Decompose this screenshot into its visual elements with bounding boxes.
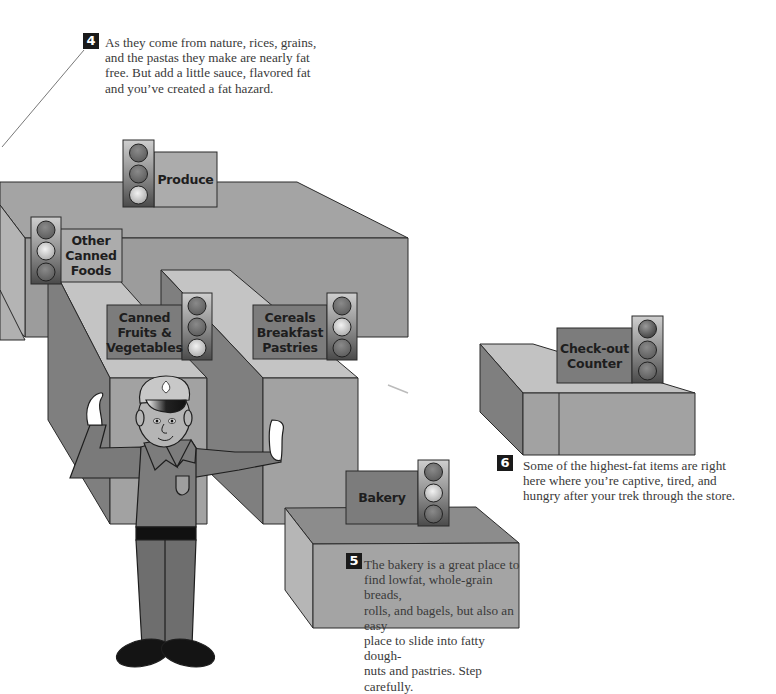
sign-label-cereals: Cereals Breakfast Pastries bbox=[253, 305, 327, 359]
callout-4-line: and you’ve created a fat hazard. bbox=[105, 81, 345, 96]
callout-5-line: find lowfat, whole-grain breads, bbox=[364, 572, 524, 602]
sign-label-produce: Produce bbox=[154, 152, 217, 207]
callout-5-line: The bakery is a great place to bbox=[364, 557, 524, 572]
callout-4-line: and the pastas they make are nearly fat bbox=[105, 50, 345, 65]
sign-label-other-canned-foods: Other Canned Foods bbox=[60, 229, 122, 282]
callout-6-line: Some of the highest-fat items are right bbox=[523, 458, 773, 473]
decorative-dash bbox=[388, 385, 408, 393]
police-badge-icon bbox=[176, 476, 189, 495]
callout-4-text: As they come from nature, rices, grains,… bbox=[105, 35, 345, 96]
callout-6-line: hungry after your trek through the store… bbox=[523, 488, 773, 503]
officer-right-hand-icon bbox=[269, 420, 283, 461]
callout-4-badge: 4 bbox=[83, 33, 99, 49]
sign-label-canned-fruits: Canned Fruits & Vegetables bbox=[107, 305, 182, 359]
traffic-light-other-canned-foods bbox=[31, 217, 61, 284]
callout-6-line: here where you’re captive, tired, and bbox=[523, 473, 773, 488]
callout-4-leader-line bbox=[2, 50, 84, 147]
callout-6-badge: 6 bbox=[497, 455, 513, 471]
traffic-light-produce bbox=[123, 140, 154, 207]
callout-4-line: As they come from nature, rices, grains, bbox=[105, 35, 345, 50]
callout-5-line: nuts and pastries. Step carefully. bbox=[364, 663, 524, 693]
callout-5-line: rolls, and bagels, but also an easy bbox=[364, 603, 524, 633]
callout-6-text: Some of the highest-fat items are right … bbox=[523, 458, 773, 504]
traffic-light-canned-fruits bbox=[182, 293, 212, 360]
callout-4-line: free. But add a little sauce, flavored f… bbox=[105, 65, 345, 80]
sign-label-checkout: Check-out Counter bbox=[557, 328, 632, 383]
callout-5-line: place to slide into fatty dough- bbox=[364, 633, 524, 663]
traffic-light-cereals bbox=[327, 293, 357, 360]
callout-5-text: The bakery is a great place to find lowf… bbox=[364, 557, 524, 694]
officer-legs bbox=[136, 540, 196, 646]
callout-5-badge: 5 bbox=[346, 553, 362, 569]
sign-label-bakery: Bakery bbox=[346, 471, 418, 524]
officer-belt bbox=[136, 527, 196, 540]
traffic-light-bakery bbox=[418, 460, 449, 526]
traffic-light-checkout bbox=[632, 316, 663, 383]
